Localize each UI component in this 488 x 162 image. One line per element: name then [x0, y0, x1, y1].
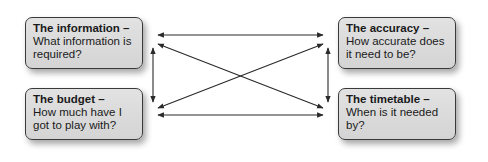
box-title: The accuracy –: [346, 22, 448, 35]
box-body: When is it needed by?: [346, 106, 448, 132]
box-title: The information –: [33, 22, 135, 35]
box-accuracy: The accuracy – How accurate does it need…: [338, 17, 456, 69]
box-body: How much have I got to play with?: [33, 106, 135, 132]
box-information: The information – What information is re…: [25, 17, 143, 69]
diagram-canvas: The information – What information is re…: [0, 0, 488, 162]
box-body: What information is required?: [33, 35, 135, 61]
box-budget: The budget – How much have I got to play…: [25, 88, 143, 140]
box-body: How accurate does it need to be?: [346, 35, 448, 61]
box-title: The budget –: [33, 93, 135, 106]
box-title: The timetable –: [346, 93, 448, 106]
box-timetable: The timetable – When is it needed by?: [338, 88, 456, 140]
